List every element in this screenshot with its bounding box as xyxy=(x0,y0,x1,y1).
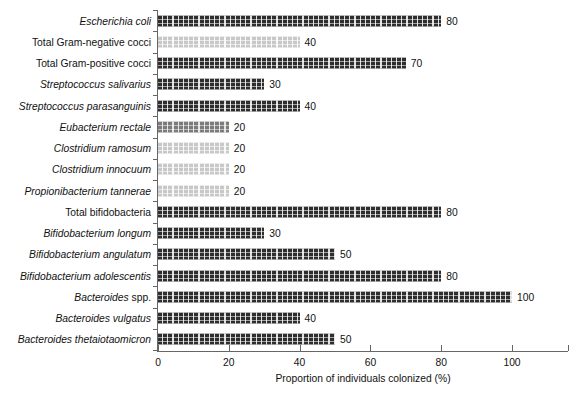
x-axis-end-cap xyxy=(568,345,569,351)
bar-value-label: 20 xyxy=(234,121,245,132)
y-axis-tick xyxy=(153,223,157,224)
y-axis-tick xyxy=(153,116,157,117)
bar-container: 40 xyxy=(158,313,316,324)
bar-value-label: 80 xyxy=(446,270,457,281)
category-label: Escherichia coli xyxy=(79,15,151,26)
bar-row: Bacteroides thetaiotaomicron50 xyxy=(0,329,587,350)
x-axis-tick-label: 100 xyxy=(503,357,520,369)
bar-row: Total bifidobacteria80 xyxy=(0,201,587,222)
bar-row: Streptococcus parasanguinis40 xyxy=(0,95,587,116)
category-label: Total Gram-negative cocci xyxy=(32,36,151,47)
bar-row: Eubacterium rectale20 xyxy=(0,116,587,137)
bar xyxy=(158,334,335,345)
bar-row: Bifidobacterium adolescentis80 xyxy=(0,265,587,286)
x-axis-tick xyxy=(441,345,442,351)
bar-container: 80 xyxy=(158,15,458,26)
category-label-suffix: spp. xyxy=(129,291,151,302)
y-axis-tick xyxy=(153,74,157,75)
y-axis-tick xyxy=(153,180,157,181)
bar xyxy=(158,185,229,196)
category-label: Bifidobacterium adolescentis xyxy=(20,270,151,281)
x-axis-line xyxy=(157,351,568,352)
bar-value-label: 20 xyxy=(234,164,245,175)
bar xyxy=(158,291,512,302)
bar xyxy=(158,15,441,26)
bar-value-label: 20 xyxy=(234,143,245,154)
x-axis-tick xyxy=(370,345,371,351)
bar-row: Bacteroides vulgatus40 xyxy=(0,308,587,329)
x-axis-tick-label: 0 xyxy=(155,357,161,369)
category-label: Clostridium ramosum xyxy=(54,143,151,154)
bar-value-label: 30 xyxy=(269,228,280,239)
bar-container: 20 xyxy=(158,164,245,175)
bar-value-label: 70 xyxy=(411,58,422,69)
bar-value-label: 30 xyxy=(269,79,280,90)
bar-value-label: 40 xyxy=(305,313,316,324)
x-axis-tick xyxy=(229,345,230,351)
bar-container: 40 xyxy=(158,36,316,47)
y-axis-tick xyxy=(153,159,157,160)
bar xyxy=(158,313,300,324)
x-axis-tick-label: 20 xyxy=(223,357,234,369)
bar-container: 30 xyxy=(158,79,281,90)
x-axis-tick-label: 40 xyxy=(294,357,305,369)
bar-row: Total Gram-positive cocci70 xyxy=(0,53,587,74)
bar-value-label: 50 xyxy=(340,249,351,260)
y-axis-tick xyxy=(153,201,157,202)
category-label: Clostridium innocuum xyxy=(52,164,151,175)
y-axis-tick xyxy=(153,31,157,32)
bar-value-label: 40 xyxy=(305,36,316,47)
bar-row: Bifidobacterium angulatum50 xyxy=(0,244,587,265)
x-axis-tick xyxy=(158,345,159,351)
x-axis-tick xyxy=(512,345,513,351)
y-axis-line xyxy=(157,10,158,351)
bar-container: 70 xyxy=(158,58,422,69)
category-label: Bacteroides spp. xyxy=(74,291,151,302)
y-axis-tick xyxy=(153,329,157,330)
bar-value-label: 80 xyxy=(446,15,457,26)
plot-area: Escherichia coli80Total Gram-negative co… xyxy=(0,0,587,394)
bar-value-label: 40 xyxy=(305,100,316,111)
y-axis-tick xyxy=(153,308,157,309)
bar-value-label: 20 xyxy=(234,185,245,196)
bar-value-label: 100 xyxy=(517,291,534,302)
bar-container: 80 xyxy=(158,270,458,281)
y-axis-tick xyxy=(153,10,157,11)
bar-row: Escherichia coli80 xyxy=(0,10,587,31)
bar xyxy=(158,206,441,217)
category-label: Total bifidobacteria xyxy=(65,206,151,217)
x-axis-tick-label: 80 xyxy=(435,357,446,369)
y-axis-tick xyxy=(153,286,157,287)
y-axis-tick xyxy=(153,244,157,245)
bar xyxy=(158,121,229,132)
bar-row: Streptococcus salivarius30 xyxy=(0,74,587,95)
category-label: Total Gram-positive cocci xyxy=(36,58,151,69)
bar-row: Bacteroides spp.100 xyxy=(0,286,587,307)
category-label: Bacteroides thetaiotaomicron xyxy=(18,334,151,345)
bar-value-label: 80 xyxy=(446,206,457,217)
bar xyxy=(158,58,406,69)
bar-row: Clostridium ramosum20 xyxy=(0,138,587,159)
bar-container: 100 xyxy=(158,291,534,302)
x-axis-tick xyxy=(300,345,301,351)
bar-row: Total Gram-negative cocci40 xyxy=(0,31,587,52)
bar-container: 20 xyxy=(158,121,245,132)
bar xyxy=(158,164,229,175)
bar xyxy=(158,143,229,154)
bar-container: 50 xyxy=(158,249,351,260)
bar-container: 80 xyxy=(158,206,458,217)
category-label: Bacteroides vulgatus xyxy=(55,313,151,324)
bar-row: Bifidobacterium longum30 xyxy=(0,223,587,244)
bar xyxy=(158,249,335,260)
bar-chart: Escherichia coli80Total Gram-negative co… xyxy=(0,0,587,394)
x-axis-tick-label: 60 xyxy=(365,357,376,369)
bar-row: Propionibacterium tannerae20 xyxy=(0,180,587,201)
category-label: Streptococcus parasanguinis xyxy=(19,100,151,111)
bar-rows: Escherichia coli80Total Gram-negative co… xyxy=(0,10,587,350)
category-label: Propionibacterium tannerae xyxy=(25,185,152,196)
bar-container: 40 xyxy=(158,100,316,111)
bar-row: Clostridium innocuum20 xyxy=(0,159,587,180)
bar xyxy=(158,36,300,47)
x-axis-title: Proportion of individuals colonized (%) xyxy=(158,373,568,385)
y-axis-tick xyxy=(153,265,157,266)
